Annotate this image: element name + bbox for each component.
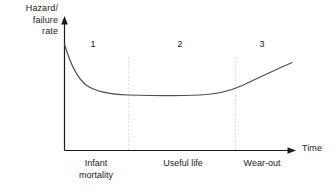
phase-label-wear-out: Wear-out [222,158,302,170]
x-axis-label: Time [302,143,322,155]
y-axis [61,16,68,151]
hazard-rate-curve [65,44,293,96]
region-number-2: 2 [168,39,192,50]
bathtub-curve-figure: Hazard/ failure rate Time 1 2 3 Infant m… [0,0,335,191]
phase-label-useful-life: Useful life [143,158,223,170]
region-number-3: 3 [250,39,274,50]
phase-label-infant-mortality: Infant mortality [56,158,136,181]
y-axis-label: Hazard/ failure rate [0,3,58,38]
region-number-1: 1 [81,39,105,50]
x-axis [65,147,297,154]
